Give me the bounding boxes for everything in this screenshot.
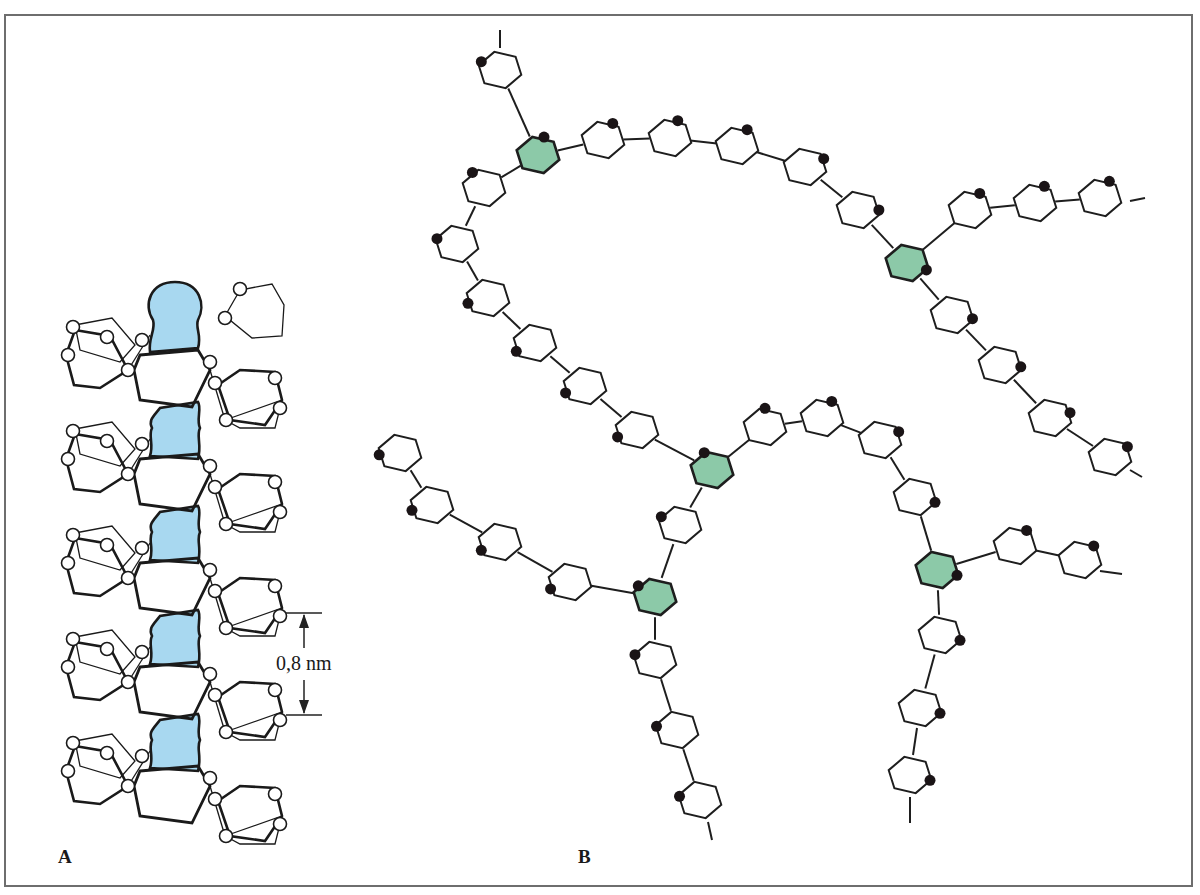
sugar-ring bbox=[134, 766, 210, 823]
ring-dot-marker bbox=[374, 449, 385, 460]
glycosidic-bond bbox=[891, 457, 905, 480]
oxygen-atom-marker bbox=[269, 372, 282, 385]
oxygen-atom-marker bbox=[136, 438, 149, 451]
arrow-down-icon bbox=[299, 700, 309, 714]
oxygen-atom-marker bbox=[269, 788, 282, 801]
glycosidic-bond bbox=[590, 586, 635, 594]
glycosidic-bond bbox=[872, 225, 894, 248]
ring-dot-marker bbox=[1039, 181, 1050, 192]
glucose-ring bbox=[649, 120, 692, 156]
oxygen-atom-marker bbox=[67, 321, 80, 334]
ring-dot-marker bbox=[925, 775, 936, 786]
oxygen-atom-marker bbox=[67, 425, 80, 438]
glycosidic-bond bbox=[690, 487, 702, 507]
oxygen-atom-marker bbox=[122, 468, 135, 481]
oxygen-atom-marker bbox=[101, 331, 114, 344]
glycosidic-bond bbox=[938, 590, 939, 615]
chain-end bbox=[1130, 470, 1142, 477]
oxygen-atom-marker bbox=[67, 633, 80, 646]
figure-canvas bbox=[0, 0, 1200, 895]
glucose-ring bbox=[514, 325, 557, 361]
glucose-ring bbox=[931, 297, 974, 333]
ring-dot-marker bbox=[539, 132, 550, 143]
glycosidic-bond bbox=[956, 552, 995, 564]
ring-dot-marker bbox=[893, 426, 904, 437]
glycosidic-bond bbox=[913, 728, 917, 755]
glycosidic-bond bbox=[411, 470, 422, 488]
oxygen-atom-marker bbox=[209, 481, 222, 494]
ring-dot-marker bbox=[1104, 176, 1115, 187]
dimension-label: 0,8 nm bbox=[276, 652, 332, 675]
glycosidic-bond bbox=[662, 544, 674, 578]
glucose-ring bbox=[634, 642, 677, 678]
ring-dot-marker bbox=[672, 115, 683, 126]
glycosidic-bond bbox=[925, 655, 934, 689]
glucose-ring bbox=[679, 782, 722, 818]
glycosidic-bond bbox=[661, 679, 671, 710]
glucose-ring bbox=[894, 479, 937, 515]
glycosidic-bond bbox=[550, 356, 569, 373]
helix-inclusion bbox=[150, 610, 200, 667]
ring-dot-marker bbox=[633, 580, 644, 591]
ring-dot-marker bbox=[674, 791, 685, 802]
glycosidic-bond bbox=[1067, 429, 1093, 446]
ring-dot-marker bbox=[967, 313, 978, 324]
oxygen-atom-marker bbox=[62, 349, 75, 362]
sugar-ring bbox=[66, 434, 128, 492]
oxygen-atom-marker bbox=[204, 460, 217, 473]
oxygen-atom-marker bbox=[204, 668, 217, 681]
glycosidic-bond bbox=[990, 205, 1015, 208]
sugar-ring bbox=[66, 642, 128, 700]
ring-dot-marker bbox=[511, 346, 522, 357]
glucose-ring bbox=[837, 192, 880, 228]
oxygen-atom-marker bbox=[209, 689, 222, 702]
glycosidic-bond bbox=[467, 262, 478, 281]
glycosidic-bond bbox=[450, 515, 482, 533]
glycosidic-bond bbox=[501, 166, 520, 178]
glucose-ring bbox=[744, 409, 787, 445]
ring-dot-marker bbox=[462, 298, 473, 309]
ring-dot-marker bbox=[1015, 361, 1026, 372]
ring-dot-marker bbox=[742, 124, 753, 135]
sugar-ring bbox=[134, 558, 210, 615]
ring-dot-marker bbox=[955, 635, 966, 646]
glycosidic-bond bbox=[920, 278, 939, 299]
oxygen-atom-marker bbox=[209, 377, 222, 390]
glucose-ring bbox=[1029, 400, 1072, 436]
glucose-ring bbox=[436, 226, 479, 262]
glycosidic-bond bbox=[966, 330, 986, 351]
oxygen-atom-marker bbox=[136, 750, 149, 763]
oxygen-atom-marker bbox=[136, 646, 149, 659]
oxygen-atom-marker bbox=[220, 518, 233, 531]
oxygen-atom-marker bbox=[204, 356, 217, 369]
ring-dot-marker bbox=[560, 387, 571, 398]
glycosidic-bond bbox=[821, 180, 843, 197]
glucose-ring bbox=[801, 400, 844, 436]
ring-dot-marker bbox=[974, 188, 985, 199]
glucose-ring bbox=[467, 280, 510, 316]
glycosidic-bond bbox=[1014, 380, 1036, 404]
sugar-ring bbox=[66, 538, 128, 596]
oxygen-atom-marker bbox=[209, 585, 222, 598]
glucose-ring bbox=[411, 487, 454, 523]
branch-point-ring bbox=[691, 452, 734, 488]
ring-dot-marker bbox=[760, 403, 771, 414]
oxygen-atom-marker bbox=[274, 610, 287, 623]
glucose-ring bbox=[899, 690, 942, 726]
oxygen-atom-marker bbox=[209, 793, 222, 806]
glucose-ring bbox=[549, 564, 592, 600]
oxygen-atom-marker bbox=[274, 506, 287, 519]
oxygen-atom-marker bbox=[101, 435, 114, 448]
ring-dot-marker bbox=[629, 649, 640, 660]
ring-dot-marker bbox=[935, 708, 946, 719]
oxygen-atom-marker bbox=[101, 643, 114, 656]
oxygen-atom-marker bbox=[269, 476, 282, 489]
oxygen-atom-marker bbox=[122, 780, 135, 793]
glycosidic-bond bbox=[558, 145, 584, 151]
arrow-up-icon bbox=[299, 614, 309, 628]
chain-end bbox=[708, 822, 712, 840]
glucose-ring bbox=[582, 122, 625, 158]
oxygen-atom-marker bbox=[274, 402, 287, 415]
ring-dot-marker bbox=[612, 431, 623, 442]
ring-dot-marker bbox=[1065, 407, 1076, 418]
